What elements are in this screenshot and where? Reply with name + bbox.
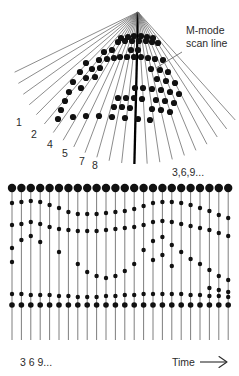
repeat-sequence-top-label: 3,6,9... bbox=[172, 166, 204, 178]
m-mode-baseline-dot bbox=[141, 302, 147, 308]
m-mode-transducer-dot bbox=[27, 184, 35, 192]
m-mode-echo-dot bbox=[57, 206, 61, 210]
fan-echo-dot bbox=[96, 57, 102, 63]
m-mode-transducer-dot bbox=[102, 184, 110, 192]
m-mode-transducer-dot bbox=[196, 184, 204, 192]
m-mode-echo-dot bbox=[29, 199, 33, 203]
m-mode-baseline-dot bbox=[131, 302, 137, 308]
m-mode-echo-dot bbox=[10, 292, 14, 296]
fan-echo-dot bbox=[135, 47, 141, 53]
m-mode-echo-dot bbox=[123, 226, 127, 230]
fan-echo-dot bbox=[167, 89, 173, 95]
fan-echo-dot bbox=[127, 105, 133, 111]
m-mode-echo-dot bbox=[226, 234, 230, 238]
fan-echo-dot bbox=[83, 60, 89, 66]
fan-echo-dot bbox=[122, 38, 128, 44]
fan-echo-dot bbox=[83, 75, 89, 81]
m-mode-echo-dot bbox=[141, 292, 145, 296]
fan-echo-dot bbox=[117, 54, 123, 60]
m-mode-echo-dot bbox=[19, 292, 23, 296]
fan-echo-dot bbox=[58, 107, 64, 113]
m-mode-echo-dot bbox=[113, 227, 117, 231]
fan-echo-dot bbox=[145, 55, 151, 61]
m-mode-echo-dot bbox=[132, 225, 136, 229]
fan-echo-dot bbox=[66, 89, 72, 95]
fan-echo-dot bbox=[171, 100, 177, 106]
fan-echo-dot bbox=[176, 91, 182, 97]
fan-echo-dot bbox=[92, 74, 98, 80]
m-mode-echo-dot bbox=[198, 226, 202, 230]
m-mode-echo-dot bbox=[226, 216, 230, 220]
fan-echo-dot bbox=[135, 116, 141, 122]
m-mode-echo-dot bbox=[85, 270, 89, 274]
m-mode-echo-dot bbox=[188, 293, 192, 297]
fan-echo-dot bbox=[139, 96, 145, 102]
fan-echo-dot bbox=[131, 54, 137, 60]
m-mode-echo-dot bbox=[160, 292, 164, 296]
m-mode-echo-dot bbox=[170, 292, 174, 296]
fan-echo-dot bbox=[163, 78, 169, 84]
m-mode-echo-dot bbox=[188, 257, 192, 261]
m-mode-baseline-dot bbox=[178, 302, 184, 308]
m-mode-echo-dot bbox=[47, 225, 51, 229]
fan-echo-dot bbox=[83, 113, 89, 119]
m-mode-echo-dot bbox=[151, 201, 155, 205]
m-mode-echo-dot bbox=[151, 239, 155, 243]
fan-echo-dot bbox=[129, 38, 135, 44]
m-mode-echo-dot bbox=[38, 293, 42, 297]
fan-echo-dot bbox=[97, 65, 103, 71]
m-mode-echo-dot bbox=[29, 293, 33, 297]
fan-echo-dot bbox=[70, 114, 76, 120]
m-mode-transducer-dot bbox=[215, 184, 223, 192]
m-mode-echo-dot bbox=[226, 295, 230, 299]
fan-echo-dot bbox=[111, 55, 117, 61]
m-mode-echo-dot bbox=[10, 201, 14, 205]
fan-echo-dot bbox=[62, 98, 68, 104]
m-mode-echo-dot bbox=[170, 220, 174, 224]
fan-echo-dot bbox=[153, 97, 159, 103]
m-mode-echo-dot bbox=[123, 293, 127, 297]
m-mode-echo-dot bbox=[57, 294, 61, 298]
repeat-sequence-bottom-label: 3 6 9... bbox=[20, 356, 52, 368]
m-mode-echo-dot bbox=[207, 294, 211, 298]
m-mode-echo-dot bbox=[198, 262, 202, 266]
m-mode-echo-dot bbox=[151, 258, 155, 262]
m-mode-echo-dot bbox=[104, 211, 108, 215]
m-mode-echo-dot bbox=[47, 293, 51, 297]
m-mode-echo-dot bbox=[207, 209, 211, 213]
time-axis-label: Time bbox=[172, 356, 195, 368]
m-mode-echo-dot bbox=[141, 248, 145, 252]
m-mode-baseline-dot bbox=[122, 302, 128, 308]
m-mode-echo-dot bbox=[198, 206, 202, 210]
m-mode-baseline-dot bbox=[47, 302, 53, 308]
m-mode-baseline-dot bbox=[197, 302, 203, 308]
m-mode-baseline-dot bbox=[9, 302, 15, 308]
fan-echo-dot bbox=[149, 39, 155, 45]
fan-echo-dot bbox=[158, 87, 164, 93]
fan-echo-dot bbox=[111, 104, 117, 110]
m-mode-baseline-dot bbox=[188, 302, 194, 308]
m-mode-baseline-dot bbox=[19, 302, 25, 308]
m-mode-label-line2: scan line bbox=[186, 37, 228, 49]
m-mode-baseline-dot bbox=[207, 302, 213, 308]
scan-number-label-1: 1 bbox=[16, 116, 22, 128]
m-mode-label-line1: M-mode bbox=[186, 24, 225, 36]
m-mode-echo-dot bbox=[141, 223, 145, 227]
m-mode-echo-dot bbox=[66, 228, 70, 232]
m-mode-echo-dot bbox=[160, 253, 164, 257]
fan-echo-dot bbox=[149, 86, 155, 92]
fan-echo-dot bbox=[115, 95, 121, 101]
fan-echo-dot bbox=[148, 66, 154, 72]
m-mode-baseline-dot bbox=[150, 302, 156, 308]
m-mode-echo-dot bbox=[38, 200, 42, 204]
m-mode-echo-dot bbox=[160, 219, 164, 223]
m-mode-echo-dot bbox=[104, 276, 108, 280]
m-mode-transducer-dot bbox=[224, 184, 232, 192]
fan-echo-dot bbox=[123, 95, 129, 101]
m-mode-echo-dot bbox=[113, 210, 117, 214]
ultrasound-m-mode-figure: M-mode scan line 124578 3,6,9... 3 6 9..… bbox=[0, 0, 239, 376]
m-mode-echo-dot bbox=[207, 286, 211, 290]
fan-echo-dot bbox=[158, 107, 164, 113]
m-mode-echo-dot bbox=[19, 238, 23, 242]
m-mode-baseline-dot bbox=[66, 302, 72, 308]
